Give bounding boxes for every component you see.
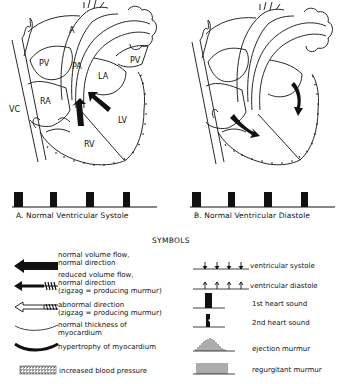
legend-text-line: myocardium	[58, 329, 127, 337]
caption-panel-b: B. Normal Ventricular Diastole	[194, 211, 310, 220]
legend-text-line: normal direction	[58, 279, 162, 287]
heart-sound-strip-b	[190, 188, 343, 208]
legend-ventricular-systole: ventricular systole	[250, 262, 315, 270]
first-heart-sound-icon	[193, 291, 227, 309]
reduced-flow-arrow-icon	[14, 279, 59, 293]
label-aorta: A	[69, 26, 74, 35]
flow-arrow-rv-to-pa	[72, 98, 86, 126]
flow-arrow-lv-to-aorta	[88, 92, 111, 112]
legend-text-line: abnormal direction	[58, 301, 162, 309]
panel-a-systole: A PV PA PV LA RA VC LV RV A. Normal Vent…	[0, 0, 172, 230]
legend-text-line: normal thickness of	[58, 321, 127, 329]
diastole-ticks-icon	[193, 280, 249, 290]
legend-first-heart-sound: 1st heart sound	[252, 300, 307, 308]
legend-normal-myocardium: normal thickness of myocardium	[58, 321, 127, 337]
label-right-atrium: RA	[40, 97, 51, 106]
flow-arrow-la-to-lv	[291, 82, 303, 116]
heart-sound-strip-a	[12, 188, 172, 208]
caption-panel-a: A. Normal Ventricular Systole	[16, 211, 129, 220]
label-left-atrium: LA	[98, 72, 108, 81]
label-vena-cava: VC	[9, 105, 20, 114]
flow-arrow-ra-to-rv	[230, 114, 260, 138]
label-right-ventricle: RV	[84, 140, 95, 149]
abnormal-direction-arrow-icon	[14, 300, 59, 314]
legend-increased-pressure: increased blood pressure	[59, 367, 147, 375]
hatched-pressure-box-icon	[20, 366, 56, 374]
panel-b-diastole: B. Normal Ventricular Diastole	[170, 0, 343, 230]
thin-myocardium-line-icon	[14, 323, 59, 333]
regurgitant-murmur-icon	[193, 361, 237, 375]
normal-flow-arrow-icon	[14, 259, 59, 273]
legend-regurgitant-murmur: regurgitant murmur	[252, 366, 322, 374]
legend-reduced-flow: reduced volume flow, normal direction (z…	[58, 271, 162, 295]
heart-diagram-diastole	[170, 0, 343, 200]
legend-ventricular-diastole: ventricular diastole	[250, 282, 318, 290]
legend-text-line: increased blood pressure	[59, 367, 147, 375]
label-left-ventricle: LV	[118, 116, 127, 125]
label-pulmonary-artery: PA	[72, 62, 82, 71]
legend-text-line: (zigzag = producing murmur)	[58, 287, 162, 295]
legend-text-line: reduced volume flow,	[58, 271, 162, 279]
symbols-title: SYMBOLS	[152, 236, 190, 245]
thick-myocardium-line-icon	[14, 341, 59, 353]
legend-ejection-murmur: ejection murmur	[252, 345, 310, 353]
ejection-murmur-icon	[193, 336, 237, 352]
legend-abnormal-direction: abnormal direction (zigzag = producing m…	[58, 301, 162, 317]
systole-ticks-icon	[193, 260, 249, 270]
legend-text-line: (zigzag = producing murmur)	[58, 309, 162, 317]
legend-second-heart-sound: 2nd heart sound	[252, 319, 310, 327]
label-pulmonary-vein-left: PV	[39, 59, 49, 68]
label-pulmonary-vein-right: PV	[130, 56, 140, 65]
legend-text-line: normal volume flow,	[58, 251, 130, 259]
legend-hypertrophy: hypertrophy of myocardium	[58, 343, 156, 351]
legend-normal-flow: normal volume flow, normal direction	[58, 251, 130, 267]
heart-diagram-systole	[0, 0, 172, 200]
legend-text-line: hypertrophy of myocardium	[58, 343, 156, 351]
legend-text-line: normal direction	[58, 259, 130, 267]
second-heart-sound-icon	[193, 312, 227, 328]
